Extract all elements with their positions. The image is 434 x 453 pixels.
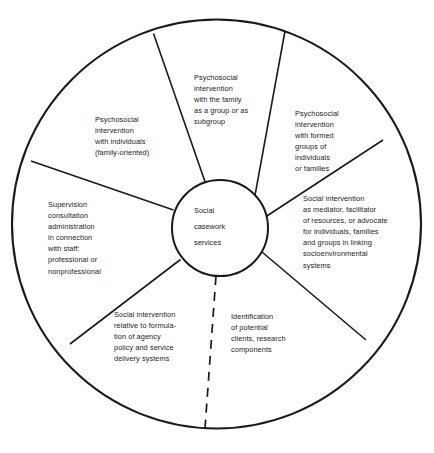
sector-label-identification: Identification of potential clients, res… (231, 311, 309, 355)
sector-label-formed-groups: Psychosocial intervention with formed gr… (295, 108, 373, 175)
divider-bottom (205, 276, 216, 429)
sector-label-policy: Social intervention relative to formula-… (114, 309, 198, 364)
sector-label-family-group: Psychosocial intervention with the famil… (194, 72, 276, 127)
diagram-canvas: Social casework services Psychosocial in… (0, 0, 434, 453)
sector-label-individuals: Psychosocial intervention with individua… (95, 114, 181, 158)
sector-label-supervision: Supervision consultation administration … (48, 199, 134, 277)
sector-label-mediator: Social intervention as mediator, facilit… (303, 193, 415, 271)
center-label: Social casework services (194, 203, 250, 251)
